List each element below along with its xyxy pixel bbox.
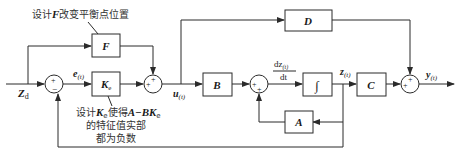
sum4-plus-top: +: [408, 75, 413, 84]
ke-annotation-line2: 的特征值实部: [86, 119, 146, 131]
ke-annotation-line1: 设计Ke使得A−BKe: [76, 106, 161, 120]
b-block-label: B: [212, 79, 220, 91]
sum3-plus-bottom: +: [257, 85, 262, 94]
ke-annotation-leader: [108, 96, 112, 106]
block-diagram: 设计F改变平衡点位置 Zd F + − e(t) Ke + + u(t) D B…: [0, 0, 461, 156]
ke-annotation-line3: 都为负数: [96, 132, 136, 144]
derivative-numerator: dz(t): [274, 59, 288, 71]
sum2-plus-top: +: [151, 75, 156, 84]
sum1-minus-sign: −: [52, 84, 57, 94]
f-output-line: [120, 46, 153, 74]
a-block-label: A: [294, 116, 302, 128]
input-label: Zd: [17, 87, 29, 101]
derivative-denominator: dt: [280, 72, 288, 82]
d-block-label: D: [303, 15, 312, 27]
output-label: y(t): [425, 69, 438, 82]
a-output-line: [259, 94, 285, 122]
f-annotation-leader: [88, 22, 98, 34]
f-annotation: 设计F改变平衡点位置: [32, 8, 129, 20]
control-label: u(t): [173, 88, 186, 101]
c-block-label: C: [367, 79, 375, 91]
f-block-label: F: [101, 40, 110, 52]
error-label: e(t): [73, 68, 85, 81]
state-label: z(t): [339, 66, 351, 79]
